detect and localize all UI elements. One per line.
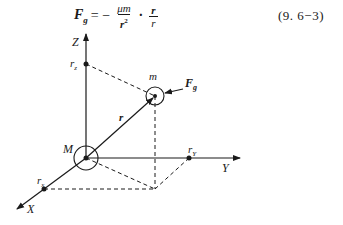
force-label: Fg: [184, 76, 197, 92]
orbiting-mass-label: m: [149, 70, 157, 82]
rx-label: rx: [37, 174, 45, 189]
coordinate-diagram: Z Y X M m r Fg rz rY rx: [0, 0, 343, 225]
origin-point: [84, 156, 89, 161]
z-axis-label: Z: [72, 35, 79, 49]
rz-point: [84, 62, 89, 67]
ry-point: [187, 156, 192, 161]
position-vector-label: r: [119, 111, 124, 123]
x-axis-label: X: [26, 202, 35, 216]
y-axis-label: Y: [222, 161, 230, 175]
position-vector-r: [86, 98, 153, 158]
rz-label: rz: [70, 57, 77, 72]
projection-lines: [44, 64, 189, 189]
central-mass-label: M: [62, 142, 74, 156]
mass-point: [153, 94, 157, 98]
force-arrow: [165, 89, 183, 93]
